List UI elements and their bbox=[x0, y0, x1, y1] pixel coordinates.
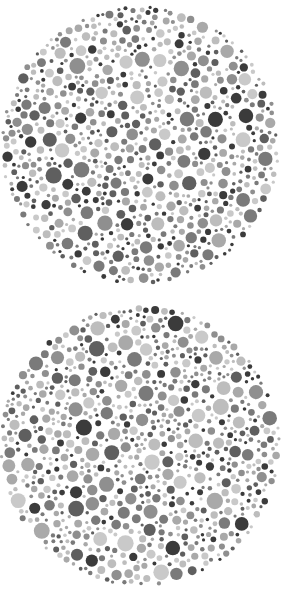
dot bbox=[258, 172, 265, 179]
dot bbox=[34, 430, 37, 433]
dot bbox=[45, 546, 48, 549]
dot bbox=[264, 483, 267, 486]
dot bbox=[106, 468, 110, 472]
dot bbox=[147, 94, 151, 98]
dot bbox=[116, 423, 120, 427]
dot bbox=[77, 106, 80, 109]
dot bbox=[205, 441, 210, 446]
dot bbox=[46, 88, 54, 96]
dot bbox=[38, 426, 43, 431]
dot bbox=[201, 75, 208, 82]
dot bbox=[110, 554, 113, 557]
dot bbox=[207, 66, 212, 71]
dot bbox=[115, 380, 127, 392]
dot bbox=[210, 511, 217, 518]
dot bbox=[50, 38, 53, 41]
dot bbox=[102, 65, 112, 75]
dot bbox=[115, 331, 120, 336]
dot bbox=[124, 421, 130, 427]
dot bbox=[49, 225, 54, 230]
dot bbox=[219, 149, 227, 157]
dot bbox=[67, 423, 72, 428]
dot bbox=[218, 179, 228, 189]
dot bbox=[217, 162, 223, 168]
dot bbox=[76, 436, 79, 439]
dot bbox=[151, 362, 158, 369]
dot bbox=[130, 52, 133, 55]
dot bbox=[157, 581, 161, 585]
dot bbox=[211, 158, 216, 163]
dot bbox=[167, 216, 173, 222]
dot bbox=[213, 105, 216, 108]
dot bbox=[148, 475, 153, 480]
dot bbox=[153, 185, 156, 188]
dot bbox=[34, 392, 37, 395]
dot bbox=[259, 91, 267, 99]
dot bbox=[221, 100, 225, 104]
dot bbox=[162, 122, 165, 125]
dot bbox=[179, 229, 185, 235]
dot bbox=[4, 447, 15, 458]
dot bbox=[64, 375, 67, 378]
dot bbox=[192, 409, 206, 423]
dot bbox=[111, 421, 115, 425]
dot bbox=[193, 245, 196, 248]
dot bbox=[277, 437, 280, 440]
dot bbox=[81, 183, 85, 187]
dot bbox=[55, 48, 66, 59]
dot bbox=[236, 353, 239, 356]
dot bbox=[135, 110, 139, 114]
dot bbox=[162, 442, 167, 447]
dot bbox=[149, 138, 161, 150]
dot bbox=[240, 431, 246, 437]
dot bbox=[190, 501, 195, 506]
dot bbox=[194, 38, 201, 45]
dot bbox=[159, 431, 165, 437]
dot bbox=[203, 353, 207, 357]
dot bbox=[117, 351, 122, 356]
dot bbox=[52, 195, 59, 202]
dot bbox=[61, 344, 65, 348]
dot bbox=[146, 81, 151, 86]
dot bbox=[20, 212, 26, 218]
dot bbox=[185, 492, 189, 496]
dot bbox=[235, 533, 239, 537]
dot bbox=[188, 419, 192, 423]
dot bbox=[102, 520, 107, 525]
dot bbox=[137, 45, 142, 50]
dot bbox=[27, 443, 32, 448]
dot bbox=[149, 6, 152, 9]
dot bbox=[69, 114, 73, 118]
dot bbox=[221, 489, 228, 496]
dot bbox=[187, 16, 194, 23]
dot bbox=[231, 93, 242, 104]
dot bbox=[118, 507, 130, 519]
dot bbox=[42, 415, 50, 423]
dot bbox=[96, 87, 108, 99]
dot bbox=[181, 265, 184, 268]
dot bbox=[56, 534, 60, 538]
dot bbox=[188, 434, 203, 449]
dot bbox=[13, 487, 17, 491]
dot bbox=[107, 243, 113, 249]
dot bbox=[220, 87, 228, 95]
dot bbox=[162, 501, 167, 506]
dot bbox=[187, 34, 190, 37]
dot bbox=[261, 441, 268, 448]
dot bbox=[93, 57, 98, 62]
dot bbox=[29, 184, 33, 188]
dot bbox=[170, 451, 173, 454]
dot bbox=[226, 373, 229, 376]
dot bbox=[87, 60, 93, 66]
dot bbox=[211, 536, 217, 542]
dot bbox=[148, 438, 160, 450]
dot bbox=[247, 499, 251, 503]
dot bbox=[47, 495, 50, 498]
dot bbox=[227, 468, 231, 472]
dot bbox=[269, 102, 273, 106]
dot bbox=[182, 359, 190, 367]
dot bbox=[140, 69, 143, 72]
dot bbox=[129, 529, 134, 534]
dot bbox=[128, 470, 133, 475]
dot bbox=[53, 162, 56, 165]
